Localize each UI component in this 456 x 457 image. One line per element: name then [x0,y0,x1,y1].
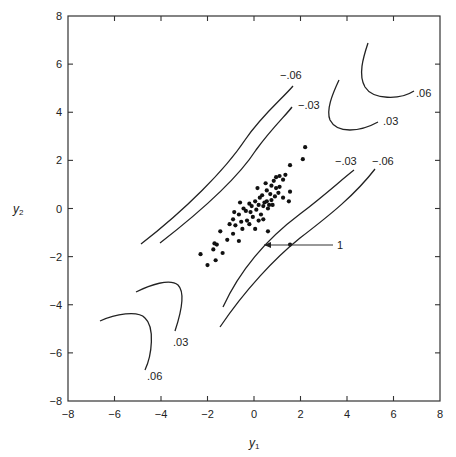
data-point [240,227,244,231]
y-tick-label: −8 [49,395,62,407]
label-pos03-upper: .03 [383,115,398,127]
data-point [287,199,291,203]
data-point [262,200,266,204]
x-tick-label: −8 [62,408,75,420]
y-tick-label: 6 [56,58,62,70]
x-axis-label: y1 [248,436,260,451]
scatter-points [198,145,307,267]
data-point [277,185,281,189]
data-point [253,199,257,203]
x-tick-label: −4 [155,408,168,420]
data-point [237,239,241,243]
y-axis-label: y2 [12,202,24,217]
label-pos06-lower: .06 [147,370,162,382]
x-tick-label: −6 [108,408,121,420]
data-point [276,191,280,195]
data-point [303,145,307,149]
data-point [259,212,263,216]
data-point [266,229,270,233]
contour-pos06-upper [362,43,414,97]
data-point [212,241,216,245]
point-annotation: 1 [264,239,343,251]
data-point [255,186,259,190]
x-tick-label: 4 [344,408,350,420]
y-tick-label: −2 [49,251,62,263]
label-neg03-lower: −.03 [335,155,357,167]
label-neg03-upper: −.03 [298,99,320,111]
data-point [301,157,305,161]
y-tick-label: 0 [56,203,62,215]
data-point [253,227,257,231]
data-point [281,196,285,200]
contour-neg06-lower [220,169,375,327]
data-point [251,215,255,219]
data-point [267,203,271,207]
data-point [198,252,202,256]
data-point [231,217,235,221]
data-point [265,188,269,192]
x-tick-label: 6 [390,408,396,420]
data-point [233,223,237,227]
contour-pos03-upper [329,80,378,130]
x-tick-label: 0 [251,408,257,420]
data-point [261,204,265,208]
data-point [214,258,218,262]
contour-neg03-upper [160,107,292,243]
contour-pos03-lower [136,282,182,331]
data-point [247,202,251,206]
label-pos03-lower: .03 [173,336,188,348]
contour-neg06-upper [141,86,293,244]
x-tick-label: −2 [201,408,214,420]
y-tick-label: −4 [49,299,62,311]
data-point [274,175,278,179]
data-point [273,194,277,198]
data-point [288,190,292,194]
y-tick-label: −6 [49,347,62,359]
data-point [272,179,276,183]
data-point [261,217,265,221]
plot-frame [68,16,440,401]
data-point [247,222,251,226]
y-tick-label: 8 [56,10,62,22]
data-point [248,210,252,214]
data-point [268,192,272,196]
data-point [205,263,209,267]
annotation-label: 1 [337,239,343,251]
contour-pos06-lower [100,314,151,370]
contour-scatter-chart: −8−6−4−202468 −8−6−4−202468 y1 y2 −.06 −… [0,0,456,457]
data-point [288,163,292,167]
x-tick-label: 8 [437,408,443,420]
data-point [269,198,273,202]
data-point [266,206,270,210]
data-point [232,210,236,214]
data-point [257,218,261,222]
y-tick-label: 2 [56,154,62,166]
data-point [264,181,268,185]
data-point [225,238,229,242]
data-point [257,203,261,207]
data-point [254,208,258,212]
data-point [227,222,231,226]
label-neg06-upper: −.06 [280,69,302,81]
data-point [281,178,285,182]
y-tick-label: 4 [56,106,62,118]
label-neg06-lower: −.06 [372,155,394,167]
data-point [218,229,222,233]
data-point [269,184,273,188]
data-point [244,209,248,213]
data-point [239,220,243,224]
data-point [258,196,262,200]
data-point [231,232,235,236]
data-point [211,247,215,251]
data-point [238,200,242,204]
data-point [221,251,225,255]
data-point [245,218,249,222]
data-point [283,173,287,177]
x-tick-label: 2 [297,408,303,420]
label-pos06-upper: .06 [416,87,431,99]
data-point [237,212,241,216]
